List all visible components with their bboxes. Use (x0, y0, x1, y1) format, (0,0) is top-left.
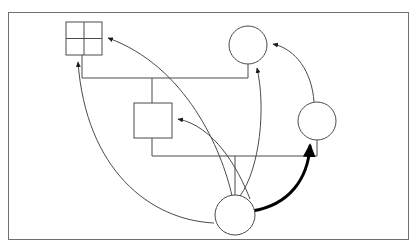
edge-orthogonal-upper (82, 55, 248, 78)
diagram-svg (0, 0, 419, 251)
diagram-canvas (0, 0, 419, 251)
orthogonal-connector-group (82, 55, 317, 196)
node-grid-square[interactable] (66, 22, 102, 55)
node-bottom-circle[interactable] (215, 195, 255, 235)
edge-bottom-to-rect (178, 119, 250, 199)
node-plain-rect[interactable] (134, 103, 172, 138)
edge-orthogonal-lower (152, 138, 317, 156)
plain-rect-outline (134, 103, 172, 138)
curved-connector-group (78, 38, 314, 223)
edge-bottom-to-square-left (78, 62, 214, 223)
right-circle-outline (298, 102, 336, 140)
node-top-circle[interactable] (229, 26, 267, 64)
top-circle-outline (229, 26, 267, 64)
edge-right-to-top-circle (273, 44, 314, 102)
node-right-circle[interactable] (298, 102, 336, 140)
bottom-circle-outline (215, 195, 255, 235)
edge-bottom-to-top-circle (240, 68, 261, 196)
